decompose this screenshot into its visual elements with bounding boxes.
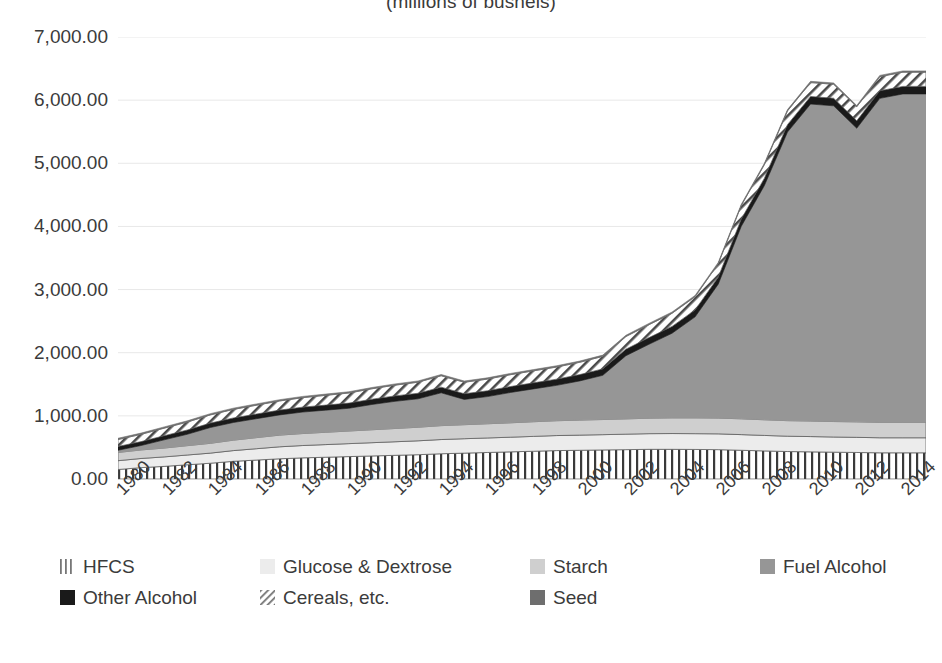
legend-item-other-alcohol[interactable]: Other Alcohol: [60, 582, 197, 612]
legend-item-fuel-alcohol[interactable]: Fuel Alcohol: [760, 551, 887, 581]
legend-row: HFCSGlucose & DextroseStarchFuel Alcohol: [60, 551, 920, 581]
legend-label: Seed: [553, 588, 597, 607]
legend-item-cereals-etc[interactable]: Cereals, etc.: [260, 582, 390, 612]
legend-label: Glucose & Dextrose: [283, 557, 452, 576]
glucose-dextrose-swatch: [260, 559, 275, 574]
series-layers: [118, 71, 926, 479]
legend-label: Fuel Alcohol: [783, 557, 887, 576]
chart-root: (millions of bushels) 0.001,000.002,000.…: [0, 0, 942, 663]
legend-item-seed[interactable]: Seed: [530, 582, 597, 612]
stacked-area-plot: [118, 37, 926, 479]
legend-item-glucose-dextrose[interactable]: Glucose & Dextrose: [260, 551, 452, 581]
legend-label: Other Alcohol: [83, 588, 197, 607]
legend-label: Cereals, etc.: [283, 588, 390, 607]
y-tick-label: 1,000.00: [0, 405, 108, 427]
starch-swatch: [530, 559, 545, 574]
fuel-alcohol-swatch: [760, 559, 775, 574]
legend-item-starch[interactable]: Starch: [530, 551, 608, 581]
y-tick-label: 0.00: [0, 468, 108, 490]
legend-label: Starch: [553, 557, 608, 576]
y-tick-label: 6,000.00: [0, 89, 108, 111]
legend-label: HFCS: [83, 557, 135, 576]
y-tick-label: 3,000.00: [0, 279, 108, 301]
legend-item-hfcs[interactable]: HFCS: [60, 551, 135, 581]
y-tick-label: 4,000.00: [0, 215, 108, 237]
chart-legend: HFCSGlucose & DextroseStarchFuel Alcohol…: [60, 551, 920, 615]
other-alcohol-swatch: [60, 590, 75, 605]
plot-area: [118, 37, 926, 479]
y-tick-label: 7,000.00: [0, 26, 108, 48]
chart-title: (millions of bushels): [0, 0, 942, 13]
y-axis: 0.001,000.002,000.003,000.004,000.005,00…: [0, 37, 108, 479]
y-tick-label: 2,000.00: [0, 342, 108, 364]
y-tick-label: 5,000.00: [0, 152, 108, 174]
area-series-fuel-alcohol: [118, 94, 926, 453]
cereals-swatch: [260, 590, 275, 605]
legend-row: Other AlcoholCereals, etc.Seed: [60, 582, 920, 612]
x-axis: 1980198219841986198819901992199419961998…: [118, 479, 926, 545]
seed-swatch: [530, 590, 545, 605]
hfcs-swatch: [60, 559, 75, 574]
